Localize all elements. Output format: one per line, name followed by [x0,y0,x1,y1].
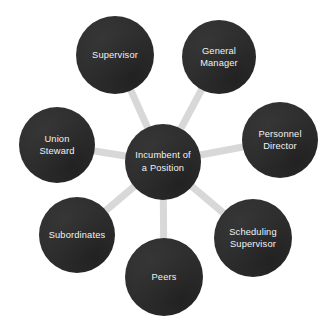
node-label-union-steward: Union Steward [36,133,77,158]
satellite-node-general-manager[interactable]: General Manager [182,20,256,94]
satellite-node-scheduling-supervisor[interactable]: Scheduling Supervisor [214,199,292,277]
node-label-incumbent: Incumbent of a Position [132,149,194,174]
satellite-node-supervisor[interactable]: Supervisor [76,16,154,94]
role-set-diagram: SupervisorGeneral ManagerPersonnel Direc… [0,0,327,331]
satellite-node-personnel-director[interactable]: Personnel Director [242,102,318,178]
satellite-node-union-steward[interactable]: Union Steward [19,107,95,183]
satellite-node-peers[interactable]: Peers [125,238,203,316]
node-label-supervisor: Supervisor [89,49,141,61]
node-label-scheduling-supervisor: Scheduling Supervisor [226,226,280,251]
satellite-node-subordinates[interactable]: Subordinates [39,197,115,273]
center-node-incumbent[interactable]: Incumbent of a Position [125,124,201,200]
node-label-general-manager: General Manager [197,45,241,70]
node-label-peers: Peers [148,271,179,283]
node-label-personnel-director: Personnel Director [255,128,304,153]
node-label-subordinates: Subordinates [46,229,109,241]
node-layer: SupervisorGeneral ManagerPersonnel Direc… [0,0,327,331]
